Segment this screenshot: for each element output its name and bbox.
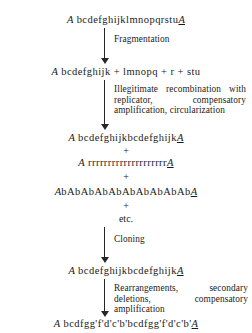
sequence-2-body: bcdefghijk + lmnopq + r + stu bbox=[58, 66, 200, 77]
sequence-row-3: A bcdefghijkbcdefghijkA bbox=[0, 132, 252, 144]
arrow-4-stem bbox=[104, 279, 105, 313]
sequence-3-body: bcdefghijkbcdefghijk bbox=[75, 132, 177, 143]
sequence-5-suffix: A bbox=[191, 186, 198, 197]
arrow-3-head bbox=[101, 257, 109, 263]
sequence-row-1: A bcdefghijklmnopqrstuA bbox=[0, 14, 252, 26]
sequence-1-suffix: A bbox=[178, 14, 185, 25]
connector-plus-2: + bbox=[0, 171, 252, 182]
annotation-fragmentation: Fragmentation bbox=[114, 34, 170, 45]
arrow-3-stem bbox=[104, 227, 105, 259]
sequence-6-body: bcdefghijkbcdefghijk bbox=[75, 265, 177, 276]
annotation-cloning: Cloning bbox=[114, 234, 145, 245]
sequence-6-suffix: A bbox=[177, 265, 184, 276]
arrow-2-head bbox=[101, 124, 109, 130]
connector-plus-3: + bbox=[0, 200, 252, 211]
annotation-recombination-text: Illegitimate recombination with replicat… bbox=[114, 84, 246, 116]
arrow-1-head bbox=[101, 58, 109, 64]
sequence-row-5: AbAbAbAbAbAbAbAbAbAbA bbox=[0, 186, 252, 198]
arrow-1-stem bbox=[104, 28, 105, 60]
arrow-4-head bbox=[101, 311, 109, 317]
sequence-5-body: bAbAbAbAbAbAbAbAbAb bbox=[61, 186, 190, 197]
annotation-rearrangements-text: Rearrangements, secondary deletions, com… bbox=[114, 283, 248, 315]
connector-etc: etc. bbox=[0, 213, 252, 224]
sequence-1-prefix: A bbox=[67, 14, 74, 25]
sequence-4-prefix: A bbox=[78, 157, 85, 168]
sequence-row-2: A bcdefghijk + lmnopq + r + stu bbox=[0, 66, 252, 78]
sequence-row-6: A bcdefghijkbcdefghijkA bbox=[0, 265, 252, 277]
sequence-4-body: rrrrrrrrrrrrrrrrrrrr bbox=[85, 157, 167, 168]
arrow-2-stem bbox=[104, 80, 105, 126]
annotation-recombination: Illegitimate recombination with replicat… bbox=[114, 84, 246, 116]
annotation-rearrangements: Rearrangements, secondary deletions, com… bbox=[114, 283, 248, 315]
sequence-row-4: A rrrrrrrrrrrrrrrrrrrrA bbox=[0, 157, 252, 169]
connector-plus-1: + bbox=[0, 145, 252, 156]
sequence-7-suffix: A bbox=[192, 318, 199, 329]
sequence-row-7: A bcdfgg'f'd'c'b'bcdfgg'f'd'c'b'A bbox=[0, 318, 252, 330]
sequence-7-body: bcdfgg'f'd'c'b'bcdfgg'f'd'c'b' bbox=[60, 318, 191, 329]
sequence-evolution-diagram: A bcdefghijklmnopqrstuA Fragmentation A … bbox=[0, 0, 252, 333]
sequence-4-suffix: A bbox=[167, 157, 174, 168]
sequence-3-suffix: A bbox=[177, 132, 184, 143]
sequence-1-body: bcdefghijklmnopqrstu bbox=[74, 14, 179, 25]
